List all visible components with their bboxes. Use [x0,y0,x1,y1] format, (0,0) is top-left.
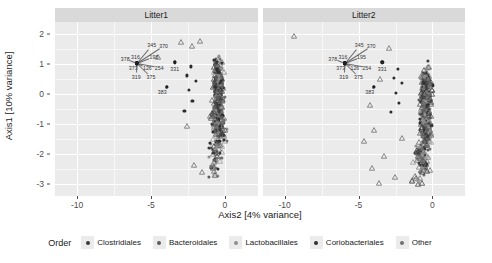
point-label: 383 [365,89,374,95]
y-axis-title: Axis1 [10% variance] [2,0,16,196]
data-point-circle [195,79,198,82]
point-label: 370 [159,43,168,49]
point-label: 319 [339,74,348,80]
gridline-horizontal-minor [263,79,466,80]
gridline-horizontal [55,124,258,125]
gridline-horizontal [263,124,466,125]
y-tick-mark [47,184,50,185]
gridline-horizontal-minor [55,169,258,170]
legend-key-swatch [153,236,166,249]
gridline-vertical-minor [396,22,397,196]
annotation-leader-line [344,64,345,73]
facet-panel-litter1: Litter1378316345370195373126254331319375… [55,8,258,196]
gridline-horizontal [55,34,258,35]
legend-item-label: Coriobacteriales [326,238,384,247]
y-tick-mark [47,64,50,65]
y-tick-mark [47,154,50,155]
data-point-circle [183,109,186,112]
legend-key-swatch [229,236,242,249]
chart-legend: Order ClostridialesBacteroidalesLactobac… [0,236,492,249]
point-label: 378 [121,56,130,62]
point-label: 319 [132,74,141,80]
y-tick-label: 1 [39,59,44,69]
data-point-circle [187,89,190,92]
y-tick-mark [47,34,50,35]
point-label: 195 [150,54,159,60]
legend-key-swatch [396,236,409,249]
data-point-circle [396,67,399,70]
gridline-horizontal-minor [55,79,258,80]
point-label: 254 [362,65,371,71]
data-point-circle [191,99,194,102]
gridline-horizontal [55,154,258,155]
data-point-circle [398,101,401,104]
point-label: 375 [354,74,363,80]
y-tick-mark [47,94,50,95]
gridline-vertical [285,22,286,196]
gridline-horizontal [263,184,466,185]
data-point-circle [225,139,228,142]
legend-item-coriobacteriales[interactable]: Coriobacteriales [310,236,384,249]
x-tick-mark [77,196,78,199]
gridline-vertical [77,22,78,196]
data-point-circle [207,146,210,149]
plot-area: 378316345370195373126254331319375383 [55,22,258,196]
gridline-vertical-minor [322,22,323,196]
x-tick-mark [285,196,286,199]
legend-item-clostridiales[interactable]: Clostridiales [81,236,141,249]
gridline-vertical-minor [114,22,115,196]
legend-item-lactobacillales[interactable]: Lactobacillales [229,236,297,249]
legend-item-label: Lactobacillales [245,238,297,247]
y-tick-label: -3 [36,179,44,189]
x-tick-mark [151,196,152,199]
x-tick-mark [225,196,226,199]
point-label: 195 [357,54,366,60]
legend-item-other[interactable]: Other [396,236,432,249]
y-axis-ticks: 210-1-2-3 [18,22,50,196]
x-axis-ticks: -10-50-10-50 [55,196,465,210]
gridline-horizontal [55,184,258,185]
facet-panel-litter2: Litter2378316345370195373126254331319375… [263,8,466,196]
legend-title: Order [48,238,71,248]
gridline-horizontal-minor [263,109,466,110]
plot-area: 378316345370195373126254331319375383 [263,22,466,196]
data-point-circle [390,110,393,113]
y-tick-mark [47,124,50,125]
legend-dot-icon [234,241,238,245]
x-axis-title: Axis2 [4% variance] [55,209,465,220]
point-label: 345 [355,42,364,48]
point-label: 345 [147,42,156,48]
legend-item-label: Other [412,238,432,247]
legend-dot-icon [314,241,318,245]
data-point-circle [426,59,429,62]
legend-dot-icon [400,241,404,245]
legend-item-label: Clostridiales [97,238,141,247]
facet-panels: Litter1378316345370195373126254331319375… [55,8,465,196]
legend-item-label: Bacteroidales [169,238,217,247]
point-label: 254 [155,65,164,71]
point-label: 331 [378,66,387,72]
gridline-horizontal-minor [263,169,466,170]
y-tick-label: 2 [39,29,44,39]
legend-dot-icon [86,241,90,245]
point-label: 375 [147,74,156,80]
data-point-circle [401,81,404,84]
x-tick-mark [359,196,360,199]
data-point-circle [207,175,210,178]
legend-key-swatch [81,236,94,249]
facet-strip-label: Litter1 [55,8,258,22]
point-label: 383 [158,89,167,95]
data-point-circle [189,65,192,68]
y-tick-label: -1 [36,119,44,129]
y-tick-label: -2 [36,149,44,159]
gridline-horizontal [263,154,466,155]
legend-dot-icon [157,241,161,245]
legend-item-bacteroidales[interactable]: Bacteroidales [153,236,217,249]
x-tick-mark [432,196,433,199]
gridline-vertical [225,22,226,196]
gridline-horizontal-minor [55,109,258,110]
point-label: 378 [328,56,337,62]
point-label: 370 [367,43,376,49]
y-tick-label: 0 [39,89,44,99]
facet-strip-label: Litter2 [263,8,466,22]
